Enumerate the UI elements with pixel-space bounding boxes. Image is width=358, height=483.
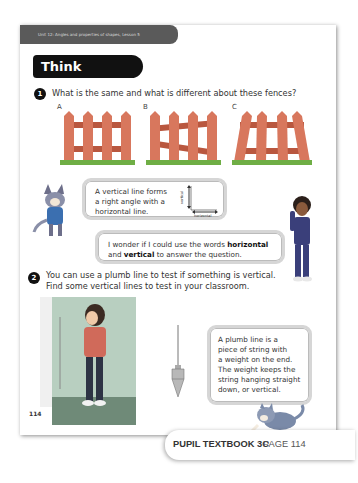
footer-book-label: PUPIL TEXTBOOK 3C	[173, 439, 269, 449]
fence-b-image	[146, 110, 221, 166]
unit-header-bar: Unit 12: Angles and properties of shapes…	[20, 25, 178, 44]
bubble-text-line: A plumb line is a	[218, 335, 309, 345]
plumb-line-image	[168, 325, 188, 405]
text-span: I wonder if I could use the words	[108, 240, 227, 249]
right-angle-diagram: vertical horizontal	[177, 184, 221, 218]
section-title: Think together	[33, 55, 143, 78]
bold-word-horizontal: horizontal	[227, 240, 268, 249]
question-2-line-2: Find some vertical lines to test in your…	[46, 281, 249, 292]
textbook-page: Unit 12: Angles and properties of shapes…	[20, 25, 336, 435]
plumb-line-speech-bubble: A plumb line is a piece of string with a…	[207, 325, 312, 405]
footer-page-tag: PUPIL TEXTBOOK 3C PAGE 114	[165, 430, 355, 460]
astrid-speech-bubble: A vertical line forms a right angle with…	[82, 178, 227, 220]
bubble-text-line: a weight on the end.	[218, 355, 309, 365]
boy-speech-bubble: I wonder if I could use the words horizo…	[95, 230, 285, 264]
svg-text:horizontal: horizontal	[194, 214, 211, 218]
text-span: and	[108, 250, 124, 259]
question-number-2: 2	[28, 272, 40, 284]
fence-a-image	[60, 110, 135, 166]
question-1-text: What is the same and what is different a…	[52, 88, 296, 99]
bubble-text-line: I wonder if I could use the words horizo…	[108, 240, 282, 250]
question-number-1: 1	[34, 88, 46, 100]
svg-text:vertical: vertical	[180, 191, 184, 204]
bubble-text-line: piece of string with	[218, 345, 309, 355]
text-span: to answer the question.	[154, 250, 241, 259]
boy-character	[282, 195, 322, 285]
bold-word-vertical: vertical	[124, 250, 155, 259]
astrid-character	[30, 180, 75, 240]
bubble-text-line: string hanging straight	[218, 375, 309, 385]
bubble-text-line: and vertical to answer the question.	[108, 250, 282, 260]
question-2-line-1: You can use a plumb line to test if some…	[46, 270, 276, 281]
footer-page-label: PAGE 114	[263, 439, 306, 449]
bubble-text-line: The weight keeps the	[218, 365, 309, 375]
bubble-text-line: down, or vertical.	[218, 385, 309, 395]
fence-c-image	[232, 110, 312, 166]
girl-plumb-line-scene	[40, 297, 140, 425]
unit-label: Unit 12: Angles and properties of shapes…	[38, 32, 140, 37]
page-number: 114	[29, 410, 42, 417]
